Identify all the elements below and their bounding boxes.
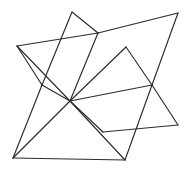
edge-center-hub-to-bottom-left [13, 101, 70, 158]
edge-center-hub-to-right-hub [70, 85, 152, 101]
edge-upper-hub-to-top-peak [72, 12, 98, 33]
edge-bottom-notch-to-right-hub [125, 85, 152, 160]
edge-right-hub-to-right-point [152, 85, 178, 125]
edge-left-point-to-upper-hub [17, 33, 98, 46]
edge-top-right-to-right-hub [152, 13, 178, 85]
edge-left-notch-to-bottom-left [13, 85, 42, 158]
edge-upper-hub-to-top-right [98, 13, 178, 33]
edge-left-point-to-left-notch [17, 46, 42, 85]
lower-left-star-group [13, 46, 125, 160]
edge-center-hub-to-right-notch [70, 47, 126, 101]
edge-center-hub-to-left-notch [42, 85, 70, 101]
edge-bottom-left-to-bottom-notch [13, 158, 125, 160]
edge-center-hub-to-left-point [17, 46, 70, 101]
center-hub-spokes-group [13, 33, 152, 160]
geometric-figure-canvas: Interlocking star polygon line drawing T… [0, 0, 189, 173]
edge-right-point-to-mid-lower [103, 125, 178, 132]
right-star-group [103, 47, 178, 160]
edge-top-peak-to-left-notch [42, 12, 72, 85]
edge-right-notch-to-right-hub [126, 47, 152, 85]
star-polygon-drawing [0, 0, 189, 173]
edge-upper-hub-to-center-hub [70, 33, 98, 101]
